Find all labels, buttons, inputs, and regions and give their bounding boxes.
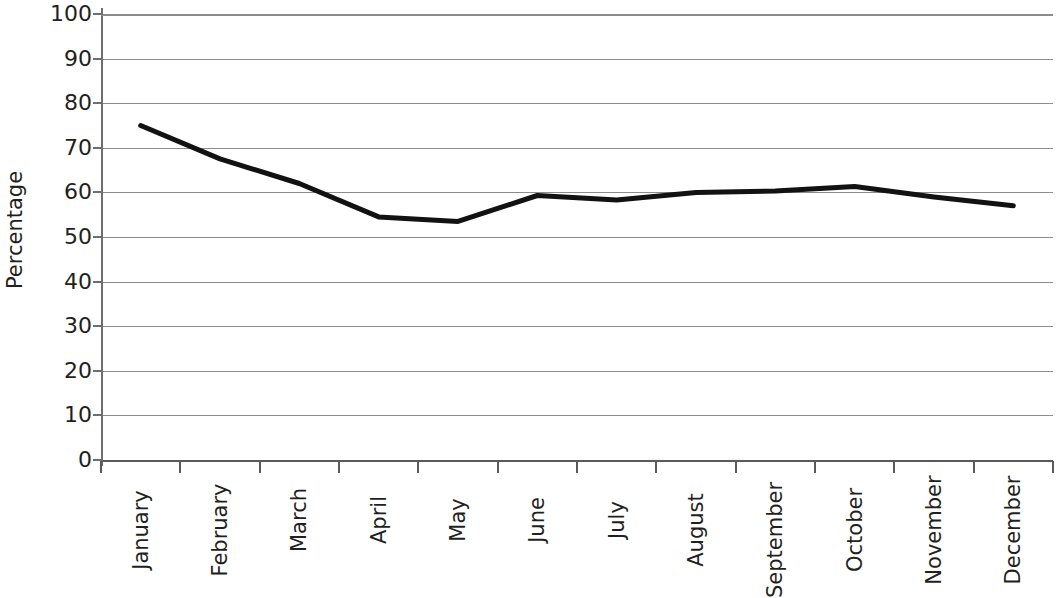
x-tick-mark-7 bbox=[655, 461, 657, 473]
y-tick-mark-30 bbox=[93, 325, 103, 327]
y-tick-mark-100 bbox=[93, 13, 103, 15]
x-axis-label-text: June bbox=[525, 497, 549, 543]
x-tick-mark-12 bbox=[1052, 461, 1054, 473]
x-axis-label-text: February bbox=[208, 483, 232, 576]
x-axis-label-january: January bbox=[128, 470, 154, 573]
x-axis-label-text: November bbox=[922, 475, 946, 584]
x-tick-mark-1 bbox=[179, 461, 181, 473]
x-tick-mark-5 bbox=[497, 461, 499, 473]
y-tick-mark-20 bbox=[93, 370, 103, 372]
x-axis-label-october: October bbox=[842, 470, 868, 573]
x-axis-label-december: December bbox=[1000, 470, 1026, 573]
x-tick-mark-6 bbox=[576, 461, 578, 473]
x-axis-label-text: March bbox=[287, 488, 311, 552]
y-tick-mark-50 bbox=[93, 236, 103, 238]
x-axis-label-march: March bbox=[286, 470, 312, 573]
y-tick-mark-10 bbox=[93, 414, 103, 416]
x-axis-label-may: May bbox=[445, 470, 471, 573]
y-tick-mark-80 bbox=[93, 102, 103, 104]
x-axis-label-november: November bbox=[921, 470, 947, 573]
x-tick-mark-4 bbox=[417, 461, 419, 473]
x-axis-label-february: February bbox=[207, 470, 233, 573]
x-axis-label-july: July bbox=[604, 470, 630, 573]
x-axis-label-text: December bbox=[1001, 476, 1025, 585]
x-tick-mark-10 bbox=[893, 461, 895, 473]
y-tick-mark-70 bbox=[93, 147, 103, 149]
x-axis-label-text: October bbox=[843, 488, 867, 572]
x-axis-label-june: June bbox=[524, 470, 550, 573]
x-axis-label-text: January bbox=[129, 490, 153, 570]
x-tick-mark-3 bbox=[338, 461, 340, 473]
x-tick-mark-8 bbox=[735, 461, 737, 473]
x-tick-mark-9 bbox=[814, 461, 816, 473]
x-axis-category-labels: JanuaryFebruaryMarchAprilMayJuneJulyAugu… bbox=[0, 470, 1061, 573]
x-axis-label-text: April bbox=[367, 496, 391, 544]
x-tick-mark-11 bbox=[973, 461, 975, 473]
x-axis-label-text: September bbox=[763, 482, 787, 598]
series-line-percentage bbox=[141, 126, 1014, 222]
x-axis-label-text: May bbox=[446, 498, 470, 541]
y-tick-mark-40 bbox=[93, 281, 103, 283]
x-tick-mark-0 bbox=[100, 461, 102, 473]
x-axis-label-text: August bbox=[684, 493, 708, 567]
y-tick-mark-90 bbox=[93, 58, 103, 60]
x-axis-label-august: August bbox=[683, 470, 709, 573]
y-tick-mark-60 bbox=[93, 191, 103, 193]
x-axis-label-april: April bbox=[366, 470, 392, 573]
x-axis-label-text: July bbox=[605, 501, 629, 539]
x-axis-label-september: September bbox=[762, 470, 788, 573]
x-tick-mark-2 bbox=[259, 461, 261, 473]
